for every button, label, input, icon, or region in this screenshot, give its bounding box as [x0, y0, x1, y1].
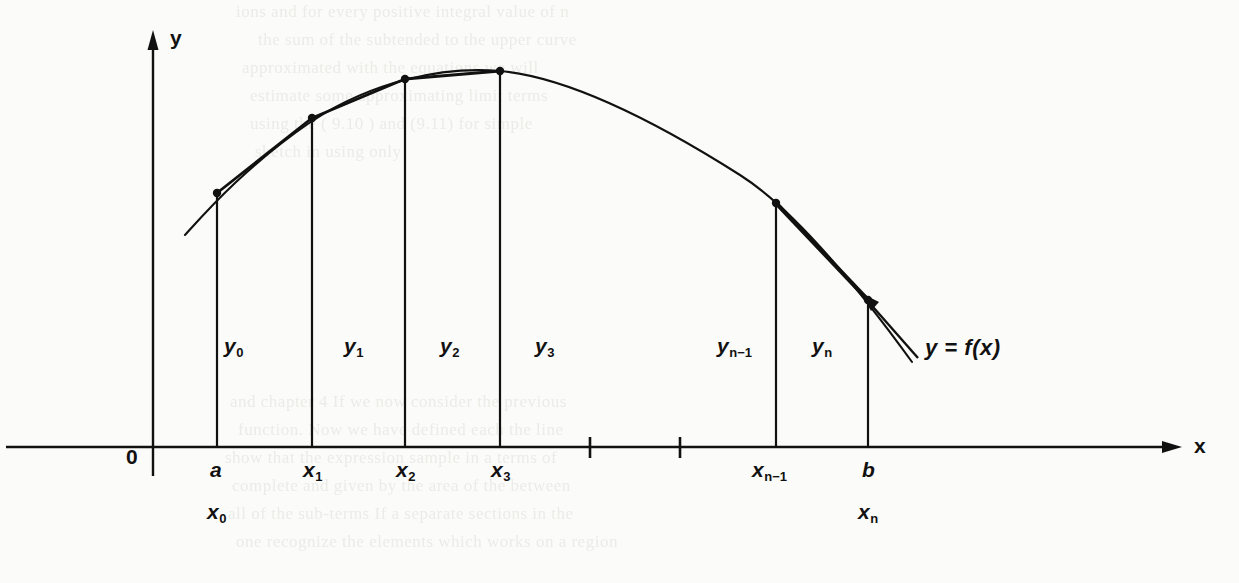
- x-tick-label-b: b: [862, 458, 875, 482]
- x-tick-label-subscript: 1: [315, 469, 322, 484]
- x-tick-label-x1: x1: [303, 458, 322, 482]
- x-alias-label-base: x: [207, 500, 219, 523]
- ordinate-label-y0: y0: [224, 334, 243, 358]
- ordinate-label-y1: y1: [344, 334, 363, 358]
- curve-point-marker: [496, 67, 504, 75]
- function-label: y = f(x): [925, 335, 1001, 361]
- y-axis-label: y: [170, 26, 182, 50]
- x-tick-label-base: x: [752, 458, 764, 481]
- x-tick-label-base: a: [210, 458, 222, 481]
- curve-point-marker: [213, 189, 221, 197]
- function-curve: [185, 70, 912, 362]
- x-tick-label-x3: x3: [491, 458, 510, 482]
- ordinate-label-subscript: 2: [452, 345, 459, 360]
- x-tick-label-subscript: 3: [503, 469, 510, 484]
- x-tick-label-base: x: [396, 458, 408, 481]
- curve-point-marker: [308, 114, 316, 122]
- ordinate-label-y2: y2: [440, 334, 459, 358]
- ordinate-label-base: y: [812, 334, 824, 357]
- x-tick-label-base: x: [303, 458, 315, 481]
- x-alias-label-subscript: n: [870, 511, 878, 526]
- x-alias-label-subscript: 0: [219, 511, 226, 526]
- figure-canvas: ions and for every positive integral val…: [0, 0, 1239, 583]
- origin-label: 0: [126, 445, 138, 469]
- ordinate-label-base: y: [717, 334, 729, 357]
- ordinate-label-base: y: [535, 334, 547, 357]
- x-alias-label-base: x: [858, 500, 870, 523]
- x-axis-label: x: [1194, 434, 1206, 458]
- chord-segments: [217, 71, 868, 300]
- ordinate-label-subscript: n: [824, 345, 832, 360]
- ordinate-label-subscript: 3: [547, 345, 554, 360]
- x-tick-label-a: a: [210, 458, 222, 482]
- ordinate-label-subscript: n−1: [729, 345, 752, 360]
- x-alias-label-x0: x0: [207, 500, 226, 524]
- ordinate-label-y3: y3: [535, 334, 554, 358]
- x-tick-label-base: b: [862, 458, 875, 481]
- x-axis: [6, 441, 1182, 453]
- ordinate-label-base: y: [344, 334, 356, 357]
- ordinate-label-base: y: [440, 334, 452, 357]
- ordinate-label-yn-1: yn−1: [717, 334, 751, 358]
- x-tick-label-x2: x2: [396, 458, 415, 482]
- x-tick-label-subscript: 2: [408, 469, 415, 484]
- function-label-leader-line: [861, 293, 918, 358]
- x-alias-label-xn: xn: [858, 500, 878, 524]
- x-tick-label-xn-1: xn−1: [752, 458, 786, 482]
- diagram-svg: [0, 0, 1239, 583]
- ordinate-label-subscript: 1: [356, 345, 363, 360]
- x-tick-label-base: x: [491, 458, 503, 481]
- ordinate-label-yn: yn: [812, 334, 832, 358]
- ordinate-label-subscript: 0: [236, 345, 243, 360]
- x-tick-label-subscript: n−1: [764, 469, 787, 484]
- y-axis: [148, 30, 159, 476]
- curve-point-marker: [772, 199, 780, 207]
- ordinate-label-base: y: [224, 334, 236, 357]
- curve-point-marker: [401, 75, 409, 83]
